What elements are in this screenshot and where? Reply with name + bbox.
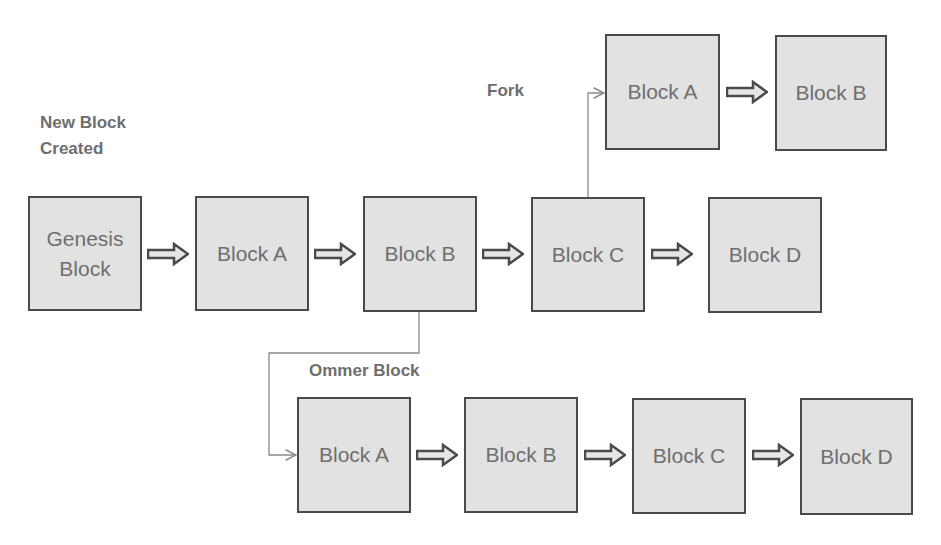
fork-connector — [588, 93, 604, 197]
arrow-icon — [727, 82, 767, 102]
main-chain-genesis-block: Genesis Block — [28, 196, 142, 311]
ommer-chain-block-a: Block A — [297, 397, 411, 513]
arrow-icon — [483, 244, 523, 264]
fork-chain-block-a: Block A — [605, 34, 720, 150]
ommer-chain-block-b: Block B — [464, 397, 578, 513]
arrow-icon — [417, 445, 457, 465]
main-chain-block-a: Block A — [195, 196, 309, 311]
arrow-icon — [315, 244, 355, 264]
ommer-chain-block-d: Block D — [800, 398, 913, 515]
fork-label: Fork — [487, 78, 524, 104]
new-block-created-label: New Block Created — [40, 110, 160, 162]
ommer-block-label: Ommer Block — [309, 358, 420, 384]
main-chain-block-b: Block B — [363, 196, 477, 312]
arrow-icon — [148, 244, 188, 264]
ommer-chain-block-c: Block C — [632, 398, 746, 514]
main-chain-block-c: Block C — [531, 197, 645, 312]
main-chain-block-d: Block D — [708, 197, 822, 313]
arrow-icon — [585, 445, 625, 465]
arrow-icon — [652, 244, 692, 264]
arrow-icon — [753, 445, 793, 465]
fork-chain-block-b: Block B — [775, 35, 887, 151]
